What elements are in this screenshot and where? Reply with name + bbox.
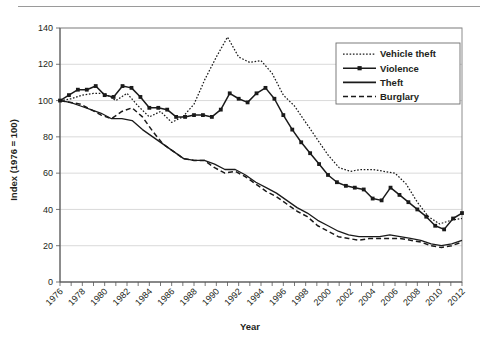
series-marker bbox=[255, 91, 259, 95]
series-marker bbox=[281, 113, 285, 117]
series-marker bbox=[433, 224, 437, 228]
x-tick-label-1976: 1976 bbox=[44, 286, 65, 307]
x-axis-tick-labels: 1976197819801982198419861988199019921994… bbox=[44, 286, 467, 307]
x-tick-label-2004: 2004 bbox=[356, 286, 377, 307]
y-tick-label-40: 40 bbox=[43, 205, 53, 215]
series-marker bbox=[264, 86, 268, 90]
series-marker bbox=[183, 115, 187, 119]
x-tick-label-1984: 1984 bbox=[133, 286, 154, 307]
series-marker bbox=[415, 208, 419, 212]
x-tick-label-1996: 1996 bbox=[267, 286, 288, 307]
series-marker bbox=[335, 180, 339, 184]
x-tick-label-1978: 1978 bbox=[66, 286, 87, 307]
top-divider-rule bbox=[18, 6, 480, 7]
x-tick-label-1980: 1980 bbox=[88, 286, 109, 307]
y-tick-label-60: 60 bbox=[43, 168, 53, 178]
y-axis-tick-labels: 020406080100120140 bbox=[38, 23, 53, 287]
series-marker bbox=[94, 84, 98, 88]
legend-label-burglary: Burglary bbox=[380, 91, 420, 102]
x-tick-label-1994: 1994 bbox=[245, 286, 266, 307]
series-burglary bbox=[60, 101, 462, 248]
x-tick-label-1998: 1998 bbox=[289, 286, 310, 307]
x-tick-label-2000: 2000 bbox=[312, 286, 333, 307]
x-tick-label-2010: 2010 bbox=[423, 286, 444, 307]
x-axis-title: Year bbox=[240, 321, 260, 332]
y-tick-label-0: 0 bbox=[48, 277, 53, 287]
x-tick-label-1992: 1992 bbox=[222, 286, 243, 307]
legend-label-theft: Theft bbox=[380, 77, 404, 88]
x-tick-label-1988: 1988 bbox=[178, 286, 199, 307]
series-marker bbox=[344, 184, 348, 188]
series-marker bbox=[76, 88, 80, 92]
series-marker bbox=[290, 128, 294, 132]
y-axis-title: Index (1976 = 100) bbox=[8, 119, 19, 201]
series-marker bbox=[121, 84, 125, 88]
series-marker bbox=[398, 193, 402, 197]
x-tick-label-1982: 1982 bbox=[111, 286, 132, 307]
x-tick-label-2006: 2006 bbox=[379, 286, 400, 307]
y-tick-label-120: 120 bbox=[38, 59, 53, 69]
legend-marker bbox=[358, 66, 362, 70]
series-marker bbox=[424, 215, 428, 219]
y-tick-label-20: 20 bbox=[43, 241, 53, 251]
series-marker bbox=[353, 186, 357, 190]
series-marker bbox=[147, 106, 151, 110]
series-marker bbox=[237, 97, 241, 101]
x-tick-label-2012: 2012 bbox=[446, 286, 467, 307]
series-marker bbox=[219, 108, 223, 112]
y-tick-label-80: 80 bbox=[43, 132, 53, 142]
series-marker bbox=[407, 200, 411, 204]
legend-label-violence: Violence bbox=[380, 63, 419, 74]
series-marker bbox=[299, 140, 303, 144]
series-marker bbox=[460, 211, 464, 215]
series-marker bbox=[380, 198, 384, 202]
series-marker bbox=[130, 86, 134, 90]
y-axis-ticks bbox=[56, 28, 60, 282]
series-marker bbox=[201, 113, 205, 117]
series-marker bbox=[389, 186, 393, 190]
series-marker bbox=[156, 106, 160, 110]
series-marker bbox=[317, 162, 321, 166]
x-tick-label-1990: 1990 bbox=[200, 286, 221, 307]
series-marker bbox=[326, 173, 330, 177]
series-marker bbox=[139, 95, 143, 99]
series-marker bbox=[67, 93, 71, 97]
series-marker bbox=[112, 95, 116, 99]
series-marker bbox=[273, 97, 277, 101]
series-marker bbox=[228, 91, 232, 95]
series-marker bbox=[174, 115, 178, 119]
series-marker bbox=[246, 100, 250, 104]
y-tick-label-140: 140 bbox=[38, 23, 53, 33]
chart-figure: 020406080100120140 197619781980198219841… bbox=[0, 0, 490, 350]
series-line-violence bbox=[60, 86, 462, 229]
x-tick-label-1986: 1986 bbox=[155, 286, 176, 307]
x-axis-ticks bbox=[60, 282, 462, 286]
chart-legend: Vehicle theftViolenceTheftBurglary bbox=[336, 43, 460, 104]
y-tick-label-100: 100 bbox=[38, 96, 53, 106]
series-marker bbox=[442, 227, 446, 231]
series-marker bbox=[85, 88, 89, 92]
series-line-burglary bbox=[60, 101, 462, 248]
series-marker bbox=[192, 113, 196, 117]
series-marker bbox=[308, 151, 312, 155]
series-marker bbox=[371, 197, 375, 201]
series-marker bbox=[103, 93, 107, 97]
series-marker bbox=[362, 188, 366, 192]
legend-label-vehicle-theft: Vehicle theft bbox=[380, 48, 437, 59]
x-tick-label-2008: 2008 bbox=[401, 286, 422, 307]
series-marker bbox=[165, 108, 169, 112]
x-tick-label-2002: 2002 bbox=[334, 286, 355, 307]
series-marker bbox=[451, 217, 455, 221]
line-chart: 020406080100120140 197619781980198219841… bbox=[0, 0, 490, 350]
series-marker bbox=[210, 115, 214, 119]
